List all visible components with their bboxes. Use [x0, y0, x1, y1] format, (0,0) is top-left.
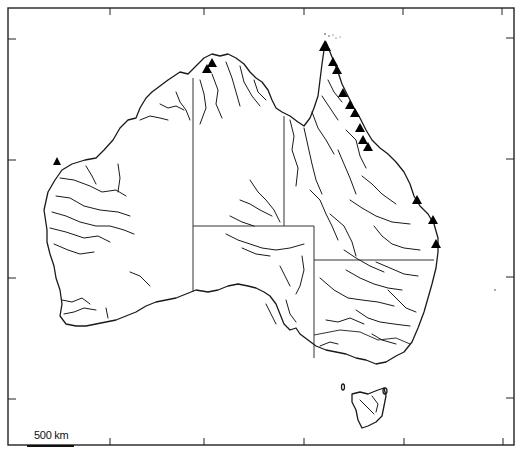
site-marker-triangle[interactable] [431, 239, 441, 248]
stray-mark [494, 289, 496, 291]
rivers [50, 62, 420, 414]
site-marker-triangle[interactable] [53, 157, 61, 165]
scale-bar [27, 445, 74, 447]
state-borders [193, 78, 434, 358]
site-marker-triangle[interactable] [345, 100, 355, 109]
mainland-coastline [44, 42, 438, 364]
site-markers [53, 40, 441, 248]
torres-strait-islands [324, 33, 340, 38]
site-marker-triangle[interactable] [328, 57, 338, 66]
tasmania-coastline [352, 388, 386, 428]
king-island [342, 384, 345, 390]
site-marker-triangle[interactable] [319, 40, 331, 51]
site-marker-triangle[interactable] [358, 135, 368, 144]
site-marker-triangle[interactable] [332, 65, 342, 74]
australia-map [0, 0, 522, 465]
site-marker-triangle[interactable] [207, 58, 217, 67]
scale-bar-label: 500 km [34, 429, 68, 441]
site-marker-triangle[interactable] [350, 108, 360, 117]
